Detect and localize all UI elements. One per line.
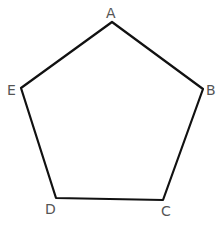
pentagon-outline xyxy=(21,22,203,200)
vertex-label-d: D xyxy=(45,201,56,217)
vertex-label-c: C xyxy=(161,203,171,219)
vertex-label-a: A xyxy=(106,5,116,21)
pentagon-diagram: ABCDE xyxy=(0,0,221,230)
vertex-label-b: B xyxy=(206,82,216,98)
vertex-label-e: E xyxy=(7,82,16,98)
